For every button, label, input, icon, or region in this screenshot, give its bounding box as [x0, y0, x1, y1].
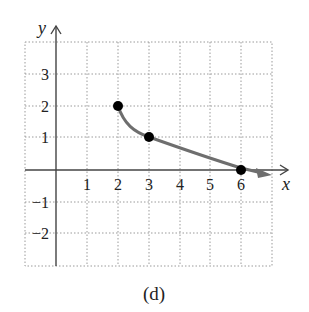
- point-6-0: [236, 165, 246, 175]
- svg-text:2: 2: [114, 176, 122, 193]
- svg-text:3: 3: [41, 66, 49, 83]
- graph: x y 1 2 3 4 5 6 3 2 1 −1 −2 (d): [0, 0, 309, 312]
- svg-text:4: 4: [176, 176, 184, 193]
- svg-text:−1: −1: [32, 194, 49, 211]
- x-tick-labels: 1 2 3 4 5 6: [83, 176, 245, 193]
- svg-text:−2: −2: [32, 225, 49, 242]
- y-axis-label: y: [36, 18, 46, 38]
- svg-text:2: 2: [41, 98, 49, 115]
- svg-text:1: 1: [83, 176, 91, 193]
- svg-text:6: 6: [237, 176, 245, 193]
- point-2-2: [113, 101, 123, 111]
- axes: [25, 26, 288, 266]
- svg-text:1: 1: [41, 129, 49, 146]
- curve: [118, 106, 272, 178]
- caption: (d): [143, 283, 165, 305]
- svg-text:3: 3: [145, 176, 153, 193]
- svg-text:5: 5: [206, 176, 214, 193]
- y-tick-labels: 3 2 1 −1 −2: [32, 66, 49, 242]
- x-axis-label: x: [281, 174, 290, 194]
- grid: [25, 42, 272, 266]
- point-3-1: [144, 132, 154, 142]
